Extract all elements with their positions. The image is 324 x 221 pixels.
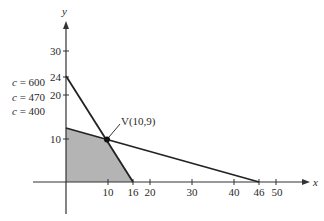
lp-graph: x y 10 16 20 30 40 46 50 10 20: [0, 0, 324, 221]
x-tick-label: 30: [187, 186, 199, 198]
vertex-point: [104, 137, 110, 143]
y-axis-arrow-icon: [63, 21, 69, 29]
x-axis-arrow-icon: [302, 179, 310, 185]
y-tick-label: 30: [50, 45, 62, 57]
y-axis-label: y: [61, 5, 67, 17]
x-axis-label: x: [312, 176, 318, 188]
x-tick-label: 16: [128, 186, 140, 198]
x-tick-label: 20: [145, 186, 157, 198]
vertex-label: V(10,9): [121, 115, 156, 128]
objective-label-600: c = 600: [12, 76, 46, 88]
objective-label-470: c = 470: [12, 91, 46, 103]
objective-label-400: c = 400: [12, 105, 46, 117]
x-tick-label: 50: [272, 186, 284, 198]
y-tick-label: 24: [50, 71, 62, 83]
x-tick-label: 10: [103, 186, 115, 198]
vertex-pointer-arrow: [109, 124, 120, 137]
x-tick-label: 40: [229, 186, 241, 198]
x-tick-label: 46: [254, 186, 266, 198]
feasible-region: [66, 128, 133, 182]
y-tick-label: 20: [50, 89, 62, 101]
y-tick-label: 10: [50, 133, 62, 145]
